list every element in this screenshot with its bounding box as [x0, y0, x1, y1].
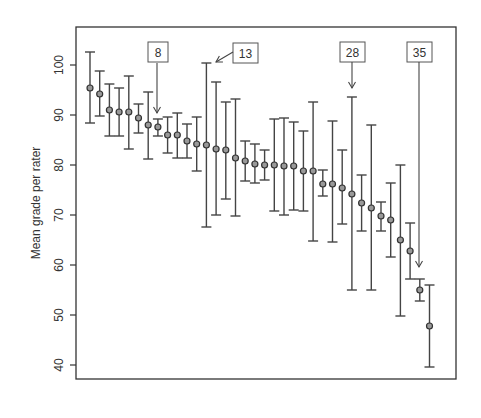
error-bar	[308, 102, 318, 241]
error-bar	[85, 52, 95, 123]
error-bar	[269, 119, 279, 211]
mean-point	[378, 213, 384, 219]
error-bar	[366, 125, 376, 290]
mean-point	[262, 162, 268, 168]
annotations: 8132835	[148, 42, 432, 267]
y-tick-label: 100	[52, 55, 66, 75]
mean-point	[136, 115, 142, 121]
mean-point	[388, 217, 394, 223]
error-bar	[134, 104, 144, 133]
error-bar	[192, 117, 202, 171]
error-bar	[114, 88, 124, 136]
error-bar	[260, 150, 270, 180]
error-bar	[153, 119, 163, 136]
mean-point	[407, 248, 413, 254]
error-bars	[85, 52, 435, 367]
mean-point	[126, 109, 132, 115]
mean-point	[184, 138, 190, 144]
y-axis: 405060708090100	[52, 55, 76, 372]
mean-point	[349, 191, 355, 197]
y-tick-label: 70	[52, 208, 66, 222]
y-tick-label: 80	[52, 158, 66, 172]
annotation-28: 28	[340, 42, 365, 88]
mean-point	[203, 142, 209, 148]
error-bar	[104, 84, 114, 136]
mean-point	[291, 163, 297, 169]
mean-point	[368, 205, 374, 211]
svg-text:28: 28	[346, 46, 360, 60]
error-bar	[376, 202, 386, 231]
mean-point	[106, 107, 112, 113]
error-bar	[337, 150, 347, 224]
svg-text:35: 35	[413, 46, 427, 60]
annotation-8: 8	[148, 42, 168, 113]
mean-point	[271, 162, 277, 168]
mean-point	[300, 168, 306, 174]
y-tick-label: 50	[52, 308, 66, 322]
error-bar	[240, 141, 250, 181]
error-bar	[357, 175, 367, 231]
mean-point	[281, 163, 287, 169]
error-bar	[201, 63, 211, 227]
y-tick-label: 60	[52, 258, 66, 272]
error-bar	[143, 92, 153, 159]
annotation-13: 13	[216, 43, 258, 63]
error-bar	[279, 118, 289, 215]
mean-point	[320, 181, 326, 187]
error-bar	[231, 99, 241, 216]
mean-point	[155, 124, 161, 130]
y-tick-label: 40	[52, 358, 66, 372]
svg-text:13: 13	[239, 47, 253, 61]
error-bar	[405, 223, 415, 279]
error-bar	[182, 124, 192, 158]
mean-point	[330, 181, 336, 187]
error-bar	[425, 285, 435, 367]
error-bar	[289, 122, 299, 210]
mean-point	[223, 147, 229, 153]
error-bar	[298, 131, 308, 211]
mean-point	[87, 85, 93, 91]
error-bar	[172, 113, 182, 158]
error-bar	[221, 102, 231, 199]
error-bar	[395, 165, 405, 316]
mean-point	[359, 200, 365, 206]
mean-point	[213, 146, 219, 152]
mean-point	[397, 237, 403, 243]
y-axis-title: Mean grade per rater	[29, 147, 43, 260]
mean-point	[417, 287, 423, 293]
error-bar	[124, 76, 134, 149]
mean-point	[174, 132, 180, 138]
error-bar	[386, 183, 396, 257]
mean-point	[194, 141, 200, 147]
error-bar	[163, 117, 173, 153]
y-tick-label: 90	[52, 108, 66, 122]
error-bar	[211, 82, 221, 215]
error-bar	[328, 121, 338, 242]
error-bar-chart: 405060708090100 Mean grade per rater 813…	[0, 0, 481, 418]
error-bar	[95, 71, 105, 116]
mean-point	[116, 109, 122, 115]
mean-point	[252, 161, 258, 167]
mean-point	[233, 155, 239, 161]
error-bar	[250, 144, 260, 183]
plot-frame	[76, 27, 456, 379]
mean-point	[310, 168, 316, 174]
mean-point	[339, 185, 345, 191]
mean-point	[242, 158, 248, 164]
error-bar	[347, 97, 357, 290]
mean-point	[427, 323, 433, 329]
mean-point	[97, 91, 103, 97]
svg-text:8: 8	[155, 46, 162, 60]
error-bar	[318, 170, 328, 196]
mean-point	[165, 132, 171, 138]
error-bar	[415, 279, 425, 301]
mean-point	[145, 122, 151, 128]
